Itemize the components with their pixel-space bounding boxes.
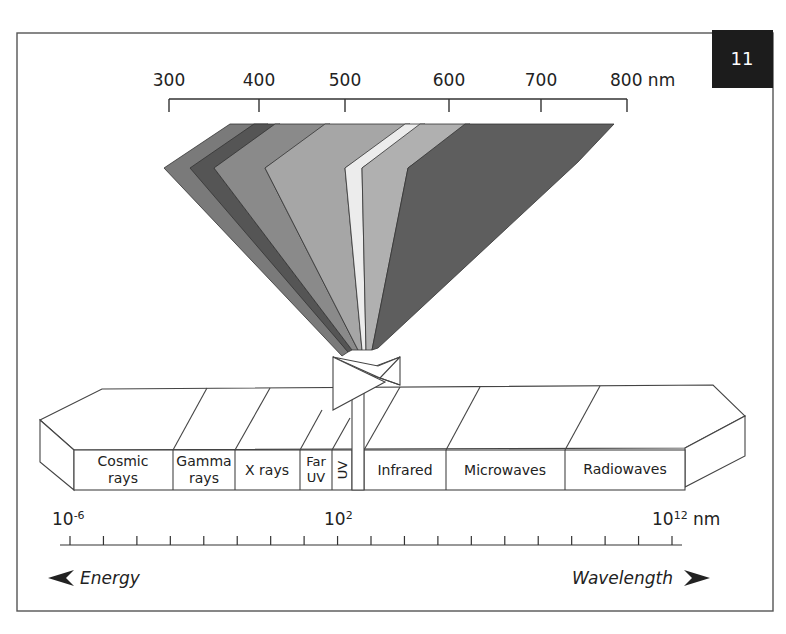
- tick-label-800nm: 800 nm: [610, 70, 675, 90]
- bar-top-face: [40, 385, 745, 450]
- label-microwaves: Microwaves: [464, 462, 546, 478]
- tick-label-300: 300: [153, 70, 185, 90]
- label-far-uv: Far: [306, 454, 326, 469]
- svg-text:11: 11: [731, 48, 754, 69]
- label-infrared: Infrared: [377, 462, 432, 478]
- tick-label-600: 600: [433, 70, 465, 90]
- label-gamma: Gamma: [176, 453, 231, 469]
- figure-number-badge: 11: [712, 30, 773, 88]
- svg-text:UV: UV: [307, 470, 326, 485]
- label-xrays: X rays: [245, 462, 289, 478]
- tick-label-700: 700: [525, 70, 557, 90]
- svg-text:rays: rays: [189, 470, 219, 486]
- svg-text:Wavelength: Wavelength: [572, 568, 673, 588]
- svg-text:Energy: Energy: [80, 568, 141, 588]
- electromagnetic-spectrum-diagram: 11 300 400 500 600 700 800 nm: [0, 0, 786, 634]
- tick-label-400: 400: [243, 70, 275, 90]
- label-uv: UV: [335, 461, 350, 480]
- svg-text:rays: rays: [108, 470, 138, 486]
- label-cosmic: Cosmic: [98, 453, 149, 469]
- tick-label-500: 500: [329, 70, 361, 90]
- label-radiowaves: Radiowaves: [583, 461, 667, 477]
